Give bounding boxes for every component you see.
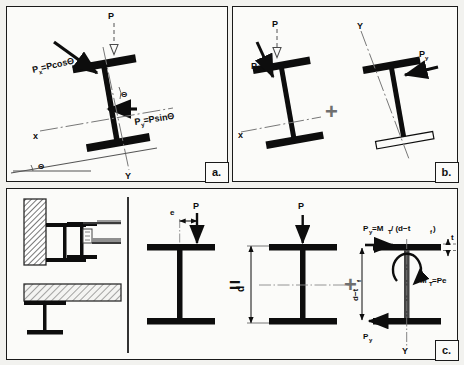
label-over-d-minus-tf: / (d−t: [391, 224, 411, 233]
label-axis-y-b: Y: [357, 21, 363, 31]
beam-web: [101, 63, 120, 143]
bending-beam-depth: P d: [235, 201, 349, 325]
conn-plate-line: [83, 222, 121, 224]
panel-a-drawing: P P x =PcosΘ P y =PsinΘ x Y Θ Θ: [7, 7, 226, 180]
i-beam-section-a: [72, 54, 150, 152]
torsion-couple-beam: [362, 239, 456, 347]
slab-beam-web: [43, 303, 47, 331]
conn-beam-lower-edge: [92, 242, 121, 244]
label-torsion-moment-expr: =Pe: [432, 276, 447, 285]
label-load-p-a: P: [108, 11, 114, 21]
label-px-group-a: P x =PcosΘ: [31, 56, 75, 77]
eccentric-load-beam: e P: [147, 201, 215, 325]
label-axis-y-c: Y: [402, 346, 408, 356]
py-force-arrow-b: [405, 67, 438, 75]
conn-bottom-flange: [67, 255, 97, 259]
beam-web: [63, 225, 67, 259]
label-flange-thickness: t: [451, 233, 454, 242]
d-web: [300, 250, 306, 318]
d-bottom-flange: [269, 318, 337, 325]
label-py-sub-b: y: [425, 55, 429, 61]
panel-tag-c: c.: [435, 340, 459, 361]
ecc-web: [177, 250, 183, 318]
label-lever-arm-sub: f: [356, 279, 362, 282]
label-axis-y-a: Y: [125, 171, 131, 180]
label-mt-eq: =M: [372, 224, 384, 233]
panel-tag-b: b.: [435, 162, 459, 183]
panel-c: e P P d: [6, 188, 458, 360]
label-load-p-c: P: [193, 201, 199, 211]
ecc-bottom-flange: [147, 318, 215, 325]
figure-root: P P x =PcosΘ P y =PsinΘ x Y Θ Θ a.: [0, 0, 464, 365]
label-load-p-d: P: [298, 201, 304, 211]
detail-beam-with-connection: [67, 220, 121, 259]
conn-beam-lower: [92, 238, 121, 242]
axis-x-line-b: [241, 117, 321, 132]
slab-hatched: [24, 284, 121, 301]
panel-tag-a: a.: [205, 162, 229, 183]
label-eccentricity-c: e: [170, 208, 175, 217]
slab-beam-bottom-flange: [27, 330, 63, 335]
label-py-expr-a: =PsinΘ: [143, 111, 175, 126]
label-torsion-moment: M: [420, 276, 427, 285]
label-axis-x-b: x: [238, 130, 243, 140]
label-px-expr-a: =PcosΘ: [40, 56, 75, 73]
panel-b-drawing: P P x x Y P y: [233, 7, 456, 180]
equals-operator-c: =: [229, 275, 241, 295]
ecc-top-flange: [147, 244, 215, 251]
plus-operator-c: +: [344, 274, 357, 296]
plus-operator-b: +: [325, 101, 338, 123]
label-angle-beam-a: Θ: [121, 90, 127, 99]
i-beam-section-b-left: [252, 57, 324, 149]
label-py-group-a: P y =PsinΘ: [134, 111, 176, 129]
d-top-flange: [269, 244, 337, 251]
label-load-p-b: P: [272, 19, 278, 29]
angle-arc-a: [31, 165, 33, 171]
wall-hatched: [24, 199, 46, 265]
panel-b: P P x x Y P y + b.: [232, 6, 458, 182]
label-close-paren: ): [433, 224, 436, 233]
beam-web: [279, 65, 297, 141]
label-bottom-force-sub: y: [369, 337, 373, 343]
label-axis-x-a: x: [33, 131, 38, 141]
panel-a: P P x =PcosΘ P y =PsinΘ x Y Θ Θ a.: [6, 6, 228, 182]
detail-beam-supporting-slab: [24, 284, 121, 335]
label-angle-ground-a: Θ: [38, 162, 44, 171]
